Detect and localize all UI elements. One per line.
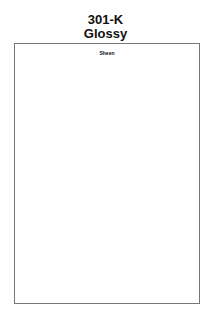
finish-name: Glossy xyxy=(0,27,211,41)
sample-panel: Sheen xyxy=(14,43,200,304)
panel-label: Sheen xyxy=(15,50,199,56)
product-code: 301-K xyxy=(0,13,211,27)
